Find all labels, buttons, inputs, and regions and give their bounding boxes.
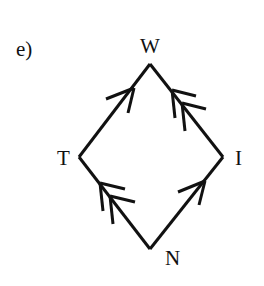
edge-t-w	[79, 64, 150, 157]
edge-n-i	[150, 157, 223, 249]
diagram-canvas: e) W T I N	[0, 0, 264, 286]
edge-i-w	[150, 64, 223, 157]
edge-n-t	[79, 157, 150, 249]
diamond-graph	[0, 0, 264, 286]
